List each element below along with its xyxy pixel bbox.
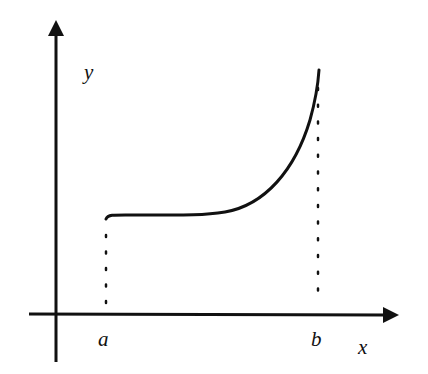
function-curve xyxy=(106,70,319,219)
x-axis xyxy=(29,314,386,315)
x-axis-label: x xyxy=(357,335,368,359)
marker-b-label: b xyxy=(311,327,322,351)
marker-a-label: a xyxy=(98,327,109,351)
y-axis-label: y xyxy=(82,60,94,84)
y-axis-arrow-icon xyxy=(48,20,64,36)
function-graph-diagram: y x a b xyxy=(0,0,428,374)
x-axis-arrow-icon xyxy=(383,307,399,323)
